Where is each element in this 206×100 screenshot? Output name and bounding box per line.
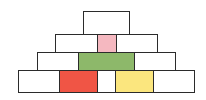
empty-brick: [83, 11, 130, 35]
red-brick: [59, 70, 98, 93]
empty-brick: [18, 70, 60, 93]
brick-pyramid-diagram: [0, 0, 206, 100]
pink-brick: [97, 34, 117, 53]
empty-brick: [153, 70, 195, 93]
empty-brick: [116, 34, 158, 53]
yellow-brick: [115, 70, 154, 93]
green-brick: [78, 52, 135, 71]
empty-brick: [55, 34, 98, 53]
empty-brick: [134, 52, 176, 71]
empty-brick: [97, 70, 116, 93]
empty-brick: [37, 52, 79, 71]
